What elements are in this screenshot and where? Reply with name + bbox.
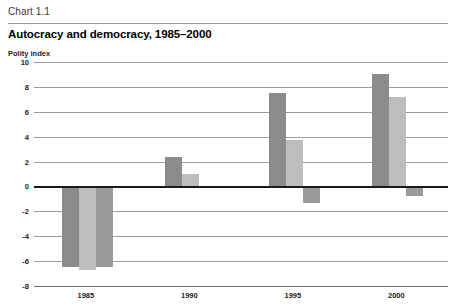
bar-group: [62, 62, 114, 286]
y-axis-unit-label: Polity index: [8, 49, 50, 58]
bar: [389, 97, 406, 187]
bar: [96, 186, 113, 267]
x-axis-tick-label: 1990: [181, 291, 198, 300]
bar: [372, 74, 389, 186]
y-axis-tick-label: 4: [25, 132, 29, 141]
x-axis-tick-label: 2000: [388, 291, 405, 300]
x-axis-tick-label: 1995: [284, 291, 301, 300]
bar: [406, 186, 423, 196]
bars-layer: [34, 62, 448, 286]
bar-group: [372, 62, 424, 286]
zero-line: 0: [34, 186, 448, 188]
bar-group: [165, 62, 217, 286]
y-axis-tick-label: 8: [25, 82, 29, 91]
chart-page: Chart 1.1 Autocracy and democracy, 1985–…: [0, 0, 454, 307]
header-divider: [8, 23, 448, 24]
y-axis-tick-label: 6: [25, 107, 29, 116]
page-title: Autocracy and democracy, 1985–2000: [8, 28, 212, 40]
bar: [269, 93, 286, 186]
x-axis-tick-label: 1985: [77, 291, 94, 300]
bar: [303, 186, 320, 202]
y-axis-tick-label: -2: [22, 207, 29, 216]
bar: [79, 186, 96, 269]
bar-group: [269, 62, 321, 286]
y-axis-tick-label: -8: [22, 282, 29, 291]
x-axis-line: [34, 286, 448, 287]
plot-area: 1086420-2-4-6-8 1985199019952000: [34, 62, 448, 286]
chart-number: Chart 1.1: [8, 6, 50, 17]
y-axis-tick-label: 0: [25, 182, 29, 191]
y-axis-tick-label: 2: [25, 157, 29, 166]
bar: [182, 174, 199, 186]
bar: [165, 157, 182, 187]
bar: [62, 186, 79, 267]
y-axis-tick-label: -6: [22, 257, 29, 266]
y-axis-tick-label: 10: [21, 58, 29, 67]
bar: [286, 140, 303, 186]
y-axis-tick-label: -4: [22, 232, 29, 241]
